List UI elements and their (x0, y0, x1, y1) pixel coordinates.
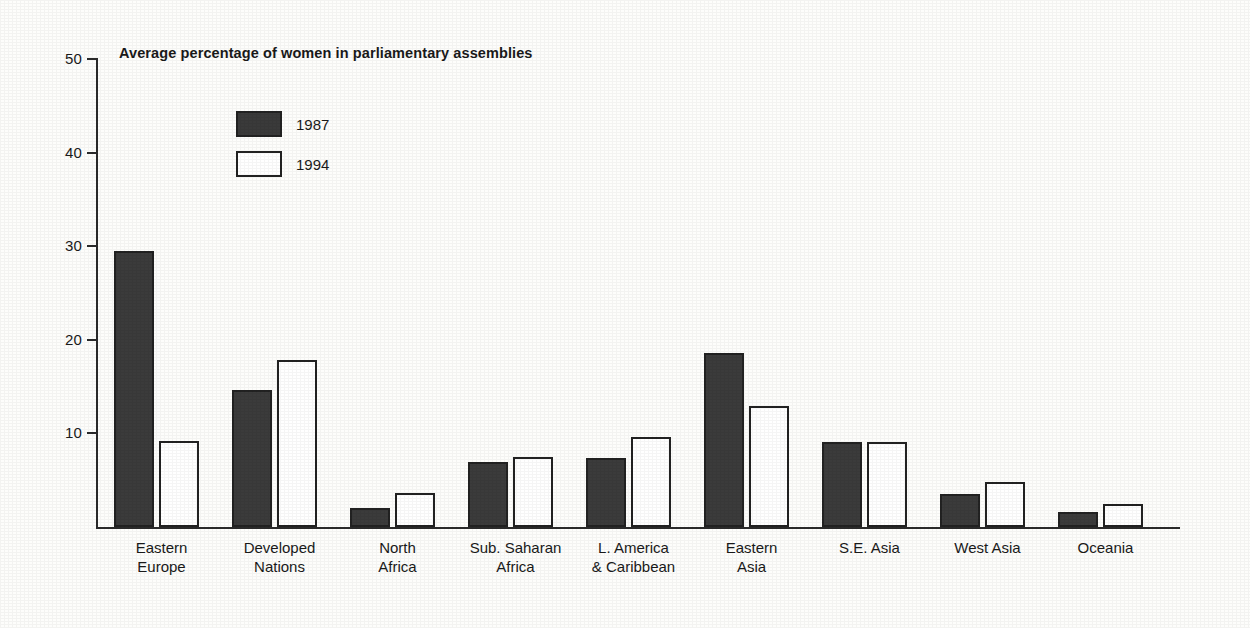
bar-1994-7 (985, 482, 1025, 527)
plot-area (96, 58, 1180, 527)
bar-1987-2 (350, 508, 390, 527)
bar-1987-0 (114, 251, 154, 527)
bar-chart-figure: Average percentage of women in parliamen… (0, 0, 1250, 628)
y-tick-label: 30 (42, 238, 82, 253)
bar-1994-1 (277, 360, 317, 527)
x-axis-line (96, 527, 1180, 529)
category-label-6: S.E. Asia (815, 538, 925, 557)
category-label-5: Eastern Asia (697, 538, 807, 576)
bar-1987-7 (940, 494, 980, 527)
bar-1994-8 (1103, 504, 1143, 527)
category-label-3: Sub. Saharan Africa (461, 538, 571, 576)
bar-1994-3 (513, 457, 553, 527)
bar-1994-2 (395, 493, 435, 527)
category-label-0: Eastern Europe (107, 538, 217, 576)
y-tick-mark (87, 245, 96, 247)
category-label-1: Developed Nations (225, 538, 335, 576)
y-tick-label: 20 (42, 332, 82, 347)
bar-1987-4 (586, 458, 626, 527)
bar-1987-1 (232, 390, 272, 527)
bar-1987-8 (1058, 512, 1098, 527)
category-label-8: Oceania (1051, 538, 1161, 557)
y-tick-label: 40 (42, 145, 82, 160)
y-tick-label: 50 (42, 51, 82, 66)
category-label-7: West Asia (933, 538, 1043, 557)
bar-1994-4 (631, 437, 671, 527)
bar-1994-0 (159, 441, 199, 527)
y-tick-mark (87, 432, 96, 434)
y-tick-label: 10 (42, 425, 82, 440)
bar-1987-3 (468, 462, 508, 527)
y-tick-mark (87, 58, 96, 60)
bar-1994-6 (867, 442, 907, 527)
y-tick-mark (87, 152, 96, 154)
y-tick-mark (87, 339, 96, 341)
category-label-4: L. America & Caribbean (579, 538, 689, 576)
bar-1994-5 (749, 406, 789, 527)
category-label-2: North Africa (343, 538, 453, 576)
bar-1987-6 (822, 442, 862, 527)
bar-1987-5 (704, 353, 744, 527)
